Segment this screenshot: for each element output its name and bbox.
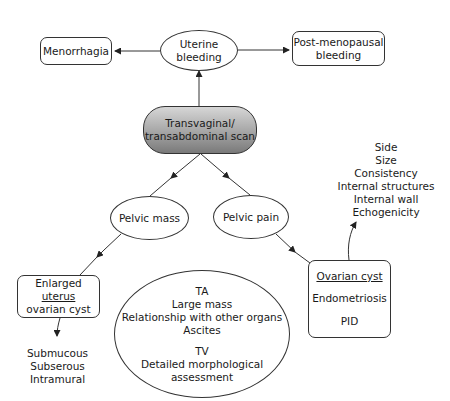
feature-internal-wall: Internal wall [354,193,419,206]
enlarged-uterus-line1: Enlarged uterus [18,277,99,303]
ta-ascites: Ascites [183,324,220,337]
fibroid-submucous: Submucous [27,347,88,360]
uterine-bleeding-line2: bleeding [176,51,221,64]
tv-assessment: assessment [171,371,233,384]
post-menopausal-line2: bleeding [316,49,361,62]
pelvic-pain-label: Pelvic pain [223,211,279,224]
ta-large-mass: Large mass [172,298,232,311]
post-menopausal-line1: Post-menopausal [293,36,383,49]
feature-internal-structures: Internal structures [338,180,435,193]
feature-echogenicity: Echogenicity [352,206,419,219]
endometriosis-label: Endometriosis [312,292,387,305]
tv-title: TV [195,345,209,358]
pelvic-mass-ellipse: Pelvic mass [110,196,189,240]
pid-label: PID [341,315,359,328]
ta-title: TA [196,285,209,298]
tv-detailed: Detailed morphological [141,358,263,371]
uterus-text: uterus [42,290,76,302]
ovarian-cyst-title: Ovarian cyst [316,270,382,283]
fibroid-intramural: Intramural [30,373,85,386]
enlarged-uterus-line2: ovarian cyst [26,303,90,316]
menorrhagia-box: Menorrhagia [40,37,112,65]
cyst-features-list: Side Size Consistency Internal structure… [330,140,442,220]
ta-tv-ellipse: TA Large mass Relationship with other or… [114,270,290,398]
ovarian-cyst-box: Ovarian cyst Endometriosis PID [308,260,391,338]
pelvic-pain-ellipse: Pelvic pain [213,195,289,239]
post-menopausal-box: Post-menopausal bleeding [292,31,385,66]
enlarged-text: Enlarged [35,277,82,289]
fibroid-subserous: Subserous [30,360,85,373]
feature-size: Size [375,154,397,167]
uterine-bleeding-ellipse: Uterine bleeding [160,30,238,71]
scan-line1: Transvaginal/ [165,117,235,130]
transvaginal-scan-root: Transvaginal/ transabdominal scan [143,106,257,154]
pelvic-mass-label: Pelvic mass [119,212,180,225]
menorrhagia-label: Menorrhagia [43,45,109,58]
feature-side: Side [375,141,398,154]
scan-line2: transabdominal scan [145,130,255,143]
ta-relationship: Relationship with other organs [122,311,283,324]
uterine-bleeding-line1: Uterine [180,38,219,51]
feature-consistency: Consistency [354,167,418,180]
enlarged-uterus-box: Enlarged uterus ovarian cyst [17,275,100,318]
fibroid-types-list: Submucous Subserous Intramural [20,345,95,387]
